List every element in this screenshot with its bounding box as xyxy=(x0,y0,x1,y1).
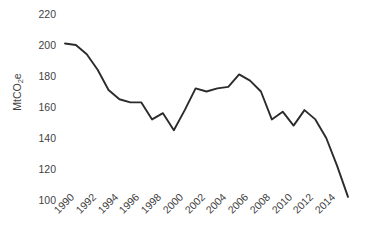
x-axis-tick-label: 2008 xyxy=(248,191,272,215)
x-axis-tick-label: 2006 xyxy=(226,191,250,215)
x-axis-tick-labels: 1990199219941996199820002002200420062008… xyxy=(0,0,368,244)
x-axis-tick-label: 1998 xyxy=(139,191,163,215)
x-axis-tick-label: 2014 xyxy=(313,191,337,215)
x-axis-tick-label: 2012 xyxy=(291,191,315,215)
x-axis-tick-label: 2002 xyxy=(183,191,207,215)
x-axis-tick-label: 1990 xyxy=(52,191,76,215)
x-axis-tick-label: 1996 xyxy=(117,191,141,215)
emissions-line-chart: MtCO2e 220200180160140120100 19901992199… xyxy=(0,0,368,244)
x-axis-tick-label: 2010 xyxy=(270,191,294,215)
x-axis-tick-label: 2000 xyxy=(161,191,185,215)
x-axis-tick-label: 2004 xyxy=(204,191,228,215)
x-axis-tick-label: 1994 xyxy=(96,191,120,215)
x-axis-tick-label: 1992 xyxy=(74,191,98,215)
